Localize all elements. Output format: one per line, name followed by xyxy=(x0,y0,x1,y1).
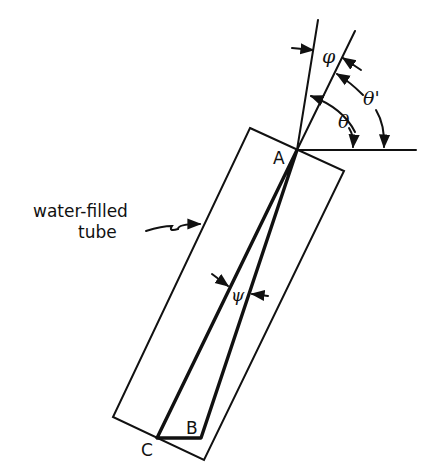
theta-arc-lower xyxy=(349,128,353,147)
theta-prime-label: θ' xyxy=(363,87,380,109)
psi-arrow-right xyxy=(252,294,268,296)
psi-arrow-left xyxy=(212,274,228,286)
psi-label: ψ xyxy=(231,285,245,305)
theta-prime-arc-lower xyxy=(376,110,384,147)
triangle-abc xyxy=(157,150,297,438)
tube-label-leader xyxy=(146,224,200,231)
point-b-label: B xyxy=(186,418,198,438)
tube-label-line2: tube xyxy=(78,222,117,242)
point-c-label: C xyxy=(141,440,153,460)
refraction-tube-diagram: water-filled tube A B C φ θ θ' ψ xyxy=(0,0,431,473)
point-a-label: A xyxy=(273,148,285,168)
phi-label: φ xyxy=(322,45,336,67)
theta-prime-arc xyxy=(337,74,363,95)
phi-arrow-right xyxy=(343,58,361,70)
tube-label-line1: water-filled xyxy=(33,201,128,221)
phi-arrow-left xyxy=(292,48,313,50)
theta-label: θ xyxy=(338,110,350,132)
